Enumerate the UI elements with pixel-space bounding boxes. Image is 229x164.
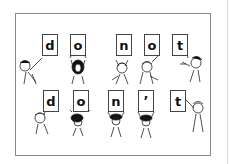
children-figures	[0, 0, 229, 164]
child-figure-7	[70, 110, 90, 136]
child-figure-1	[20, 58, 42, 84]
letter-card-row2-1: d	[43, 90, 59, 112]
letter-card-row2-4: ’	[138, 90, 154, 112]
letter-card-row1-4: o	[144, 34, 160, 56]
letter-card-row1-3: n	[116, 34, 132, 56]
child-figure-2	[70, 54, 86, 84]
child-figure-6	[35, 110, 48, 134]
child-figure-4	[140, 56, 158, 84]
letter-card-row1-1: d	[42, 34, 58, 56]
child-figure-3	[112, 60, 128, 84]
child-figure-10	[186, 100, 203, 132]
letter-card-row1-5: t	[172, 34, 188, 56]
letter-card-row2-3: n	[108, 90, 124, 112]
child-figure-9	[138, 112, 154, 138]
letter-card-row2-2: o	[73, 90, 89, 112]
letter-card-row2-5: t	[170, 90, 186, 112]
child-figure-8	[108, 112, 124, 137]
letter-card-row1-2: o	[70, 34, 86, 56]
